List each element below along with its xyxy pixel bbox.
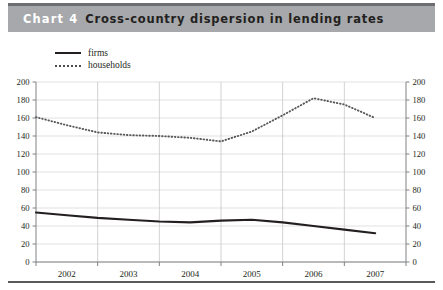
- y-axis-right-tick-label: 140: [413, 131, 426, 141]
- series-line-firms: [36, 213, 375, 234]
- y-axis-left-tick-label: 0: [25, 257, 29, 267]
- y-axis-right-tick-label: 80: [413, 185, 422, 195]
- y-axis-right-tick-label: 120: [413, 149, 426, 159]
- x-axis-tick-label: 2002: [58, 269, 76, 279]
- y-axis-right-tick-label: 160: [413, 113, 426, 123]
- y-axis-left-tick-label: 160: [17, 113, 30, 123]
- y-axis-right-tick-label: 20: [413, 239, 422, 249]
- y-axis-left-tick-label: 40: [21, 221, 30, 231]
- x-axis-tick-label: 2003: [120, 269, 139, 279]
- y-axis-left-tick-label: 60: [21, 203, 30, 213]
- plot-area: 0020204040606080801001001201201401401601…: [0, 0, 443, 290]
- y-axis-right-tick-label: 40: [413, 221, 422, 231]
- y-axis-left-tick-label: 140: [17, 131, 30, 141]
- y-axis-right-tick-label: 200: [413, 77, 426, 87]
- y-axis-right-tick-label: 180: [413, 95, 426, 105]
- x-axis-tick-label: 2004: [181, 269, 200, 279]
- y-axis-left-tick-label: 80: [21, 185, 30, 195]
- y-axis-left-tick-label: 120: [17, 149, 30, 159]
- footer-rule: [8, 281, 435, 283]
- y-axis-left-tick-label: 100: [17, 167, 30, 177]
- y-axis-left-tick-label: 200: [17, 77, 30, 87]
- series-line-households: [36, 98, 375, 141]
- y-axis-left-tick-label: 180: [17, 95, 30, 105]
- chart-canvas: 0020204040606080801001001201201401401601…: [0, 0, 443, 290]
- chart-page: Chart 4 Cross-country dispersion in lend…: [0, 0, 443, 290]
- y-axis-right-tick-label: 0: [413, 257, 417, 267]
- x-axis-tick-label: 2006: [305, 269, 324, 279]
- y-axis-right-tick-label: 100: [413, 167, 426, 177]
- y-axis-left-tick-label: 20: [21, 239, 30, 249]
- x-axis-tick-label: 2007: [366, 269, 385, 279]
- x-axis-tick-label: 2005: [243, 269, 262, 279]
- y-axis-right-tick-label: 60: [413, 203, 422, 213]
